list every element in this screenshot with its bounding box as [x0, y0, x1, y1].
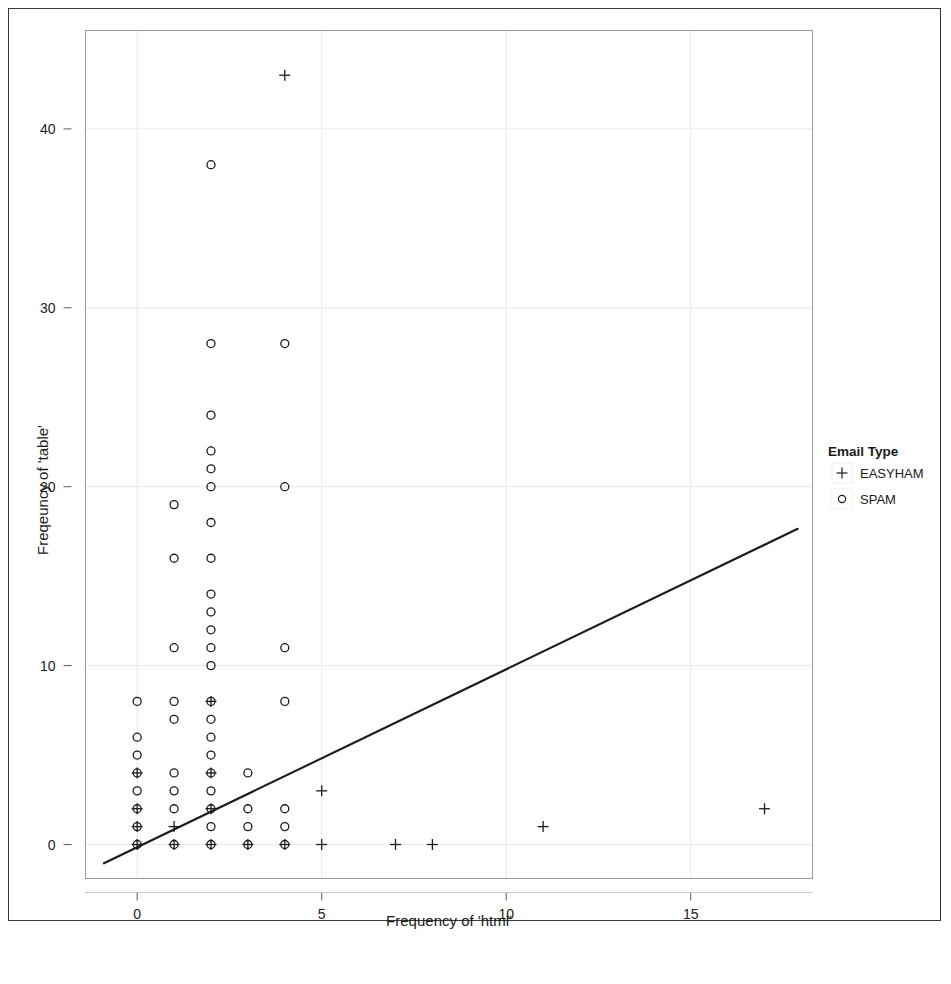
legend-key-box-spam — [832, 489, 852, 509]
data-point-circle — [207, 715, 215, 723]
data-point-circle — [207, 823, 215, 831]
data-point-circle — [207, 447, 215, 455]
grid-layer — [86, 31, 813, 879]
data-point-circle — [281, 340, 289, 348]
data-point-plus — [427, 839, 438, 850]
x-tick-label: 5 — [318, 906, 326, 922]
data-point-circle — [207, 626, 215, 634]
y-tick-label: 30 — [40, 300, 56, 316]
data-point-circle — [244, 769, 252, 777]
data-point-circle — [170, 787, 178, 795]
trendline-layer — [104, 529, 798, 864]
data-point-circle — [207, 751, 215, 759]
data-point-circle — [207, 340, 215, 348]
data-point-circle — [207, 590, 215, 598]
data-point-plus — [538, 821, 549, 832]
y-tick-label: 40 — [40, 121, 56, 137]
legend-label-easyham: EASYHAM — [860, 466, 924, 481]
data-point-plus — [316, 839, 327, 850]
data-point-circle — [207, 411, 215, 419]
data-point-circle — [281, 823, 289, 831]
data-point-plus — [316, 785, 327, 796]
data-point-circle — [244, 805, 252, 813]
legend-label-spam: SPAM — [860, 492, 896, 507]
legend-entry-spam[interactable]: SPAM — [832, 489, 896, 509]
data-point-circle — [207, 161, 215, 169]
data-point-circle — [170, 554, 178, 562]
data-point-circle — [207, 554, 215, 562]
data-point-plus — [390, 839, 401, 850]
legend-title: Email Type — [828, 444, 899, 459]
data-point-circle — [207, 787, 215, 795]
caption-strip — [10, 930, 940, 974]
axis-ticks-layer: 051015010203040 — [40, 121, 813, 922]
plot-panel-border — [86, 31, 813, 879]
data-point-circle — [281, 644, 289, 652]
data-point-circle — [170, 715, 178, 723]
scatter-plot: 051015010203040 Frequency of 'html' Freq… — [0, 0, 951, 984]
regression-trendline — [104, 529, 798, 864]
data-point-circle — [170, 769, 178, 777]
legend-entry-easyham[interactable]: EASYHAM — [832, 463, 924, 483]
data-point-plus — [759, 803, 770, 814]
y-tick-label: 10 — [40, 658, 56, 674]
figure-area: 051015010203040 Frequency of 'html' Freq… — [0, 0, 951, 984]
data-point-circle — [281, 697, 289, 705]
data-point-circle — [170, 697, 178, 705]
y-tick-label: 0 — [48, 837, 56, 853]
x-tick-label: 0 — [133, 906, 141, 922]
legend: Email Type EASYHAM SPAM — [828, 444, 924, 509]
data-points-layer — [132, 70, 770, 850]
data-point-circle — [244, 823, 252, 831]
data-point-circle — [170, 644, 178, 652]
x-axis-title: Frequency of 'html' — [386, 912, 512, 929]
data-point-circle — [207, 518, 215, 526]
data-point-circle — [207, 465, 215, 473]
data-point-circle — [207, 608, 215, 616]
data-point-circle — [207, 644, 215, 652]
x-tick-label: 15 — [683, 906, 699, 922]
data-point-circle — [170, 501, 178, 509]
data-point-circle — [207, 733, 215, 741]
data-point-circle — [281, 805, 289, 813]
y-axis-title: Freqeuncy of 'table' — [34, 425, 51, 555]
data-point-plus — [279, 70, 290, 81]
data-point-circle — [170, 805, 178, 813]
